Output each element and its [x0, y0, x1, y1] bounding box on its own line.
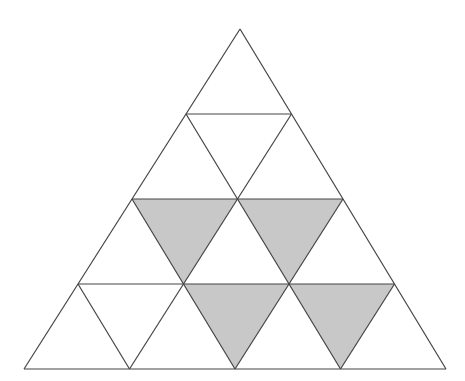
shaded-triangle — [184, 284, 290, 369]
shaded-triangle — [289, 284, 395, 369]
subdivided-triangle-diagram — [0, 0, 465, 381]
shaded-triangle — [238, 199, 344, 284]
shaded-triangle — [132, 199, 238, 284]
left-diagonal-line — [78, 284, 130, 369]
